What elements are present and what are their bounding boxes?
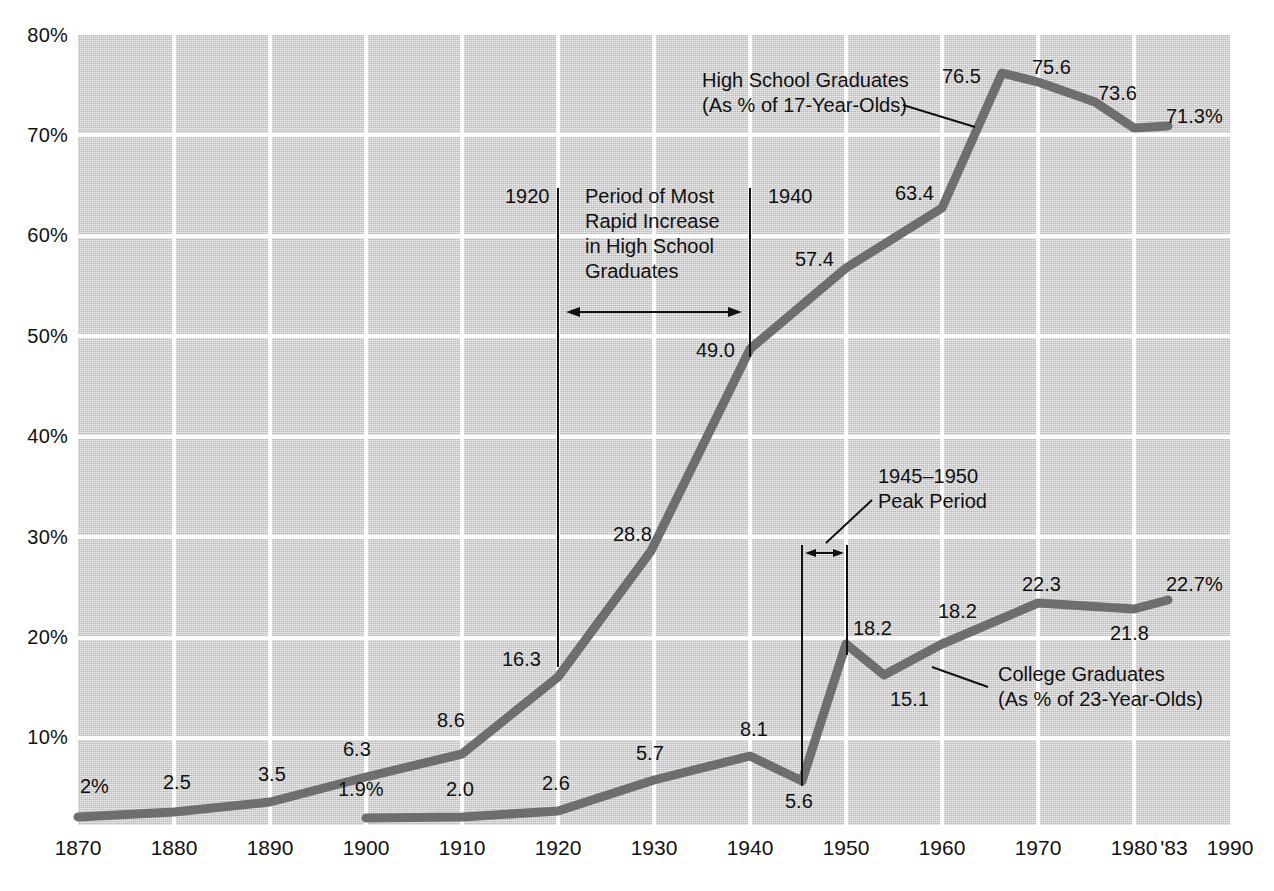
- x-tick-1910: 1910: [439, 836, 486, 860]
- college-label-1970: 22.3: [1022, 573, 1061, 596]
- gridline-1960: [940, 35, 944, 825]
- y-tick-40: 40%: [27, 425, 68, 448]
- college-callout-line1: College Graduates: [998, 662, 1203, 687]
- x-tick-1950: 1950: [823, 836, 870, 860]
- rapid-increase-line1: Period of Most: [585, 184, 720, 209]
- x-tick-1980: 1980: [1111, 836, 1158, 860]
- gridline-1900: [364, 35, 368, 825]
- hs-label-1930: 28.8: [613, 523, 652, 546]
- college-label-1954: 15.1: [890, 688, 929, 711]
- x-tick-1930: 1930: [631, 836, 678, 860]
- college-label-1900: 1.9%: [338, 778, 384, 801]
- hs-label-1880: 2.5: [163, 771, 191, 794]
- gridline-1920: [556, 35, 560, 825]
- gridline-1890: [268, 35, 272, 825]
- y-tick-70: 70%: [27, 124, 68, 147]
- hs-label-1965: 76.5: [942, 65, 981, 88]
- x-tick-1970: 1970: [1015, 836, 1062, 860]
- x-tick-1940: 1940: [727, 836, 774, 860]
- hs-label-1960: 63.4: [895, 182, 934, 205]
- college-callout-line2: (As % of 23-Year-Olds): [998, 687, 1203, 712]
- x-tick-1960: 1960: [919, 836, 966, 860]
- gridline-1950: [844, 35, 848, 825]
- x-tick-1983: '83: [1160, 836, 1187, 860]
- rapid-increase-annotation: Period of Most Rapid Increase in High Sc…: [585, 184, 720, 284]
- rapid-increase-line2: Rapid Increase: [585, 209, 720, 234]
- gridline-1910: [460, 35, 464, 825]
- x-tick-1870: 1870: [55, 836, 102, 860]
- college-label-1940: 8.1: [740, 718, 768, 741]
- high-school-series-callout: High School Graduates (As % of 17-Year-O…: [702, 68, 909, 118]
- education-attainment-line-chart: 80% 70% 60% 50% 40% 30% 20% 10% 1870 188…: [0, 0, 1274, 891]
- hs-label-1920: 16.3: [502, 648, 541, 671]
- x-tick-1990: 1990: [1207, 836, 1254, 860]
- hs-label-1970: 75.6: [1032, 56, 1071, 79]
- rapid-increase-marker-1940: 1940: [768, 184, 813, 209]
- hs-label-1890: 3.5: [258, 763, 286, 786]
- college-label-1983: 22.7%: [1166, 573, 1223, 596]
- rapid-increase-line4: Graduates: [585, 259, 720, 284]
- college-label-1920: 2.6: [542, 772, 570, 795]
- x-tick-1880: 1880: [151, 836, 198, 860]
- hs-label-1950: 57.4: [795, 248, 834, 271]
- rapid-increase-line3: in High School: [585, 234, 720, 259]
- peak-period-line1: 1945–1950: [878, 464, 987, 489]
- high-school-callout-line2: (As % of 17-Year-Olds): [702, 93, 909, 118]
- gridline-1930: [652, 35, 656, 825]
- y-tick-80: 80%: [27, 24, 68, 47]
- gridline-1880: [172, 35, 176, 825]
- y-tick-20: 20%: [27, 626, 68, 649]
- gridline-1940: [748, 35, 752, 825]
- peak-period-annotation: 1945–1950 Peak Period: [878, 464, 987, 514]
- high-school-callout-line1: High School Graduates: [702, 68, 909, 93]
- peak-period-line2: Peak Period: [878, 489, 987, 514]
- college-series-callout: College Graduates (As % of 23-Year-Olds): [998, 662, 1203, 712]
- rapid-increase-marker-1920: 1920: [505, 184, 550, 209]
- hs-label-1983: 71.3%: [1166, 105, 1223, 128]
- x-tick-1890: 1890: [247, 836, 294, 860]
- x-tick-1900: 1900: [343, 836, 390, 860]
- y-tick-10: 10%: [27, 726, 68, 749]
- college-label-1960: 18.2: [938, 600, 977, 623]
- x-tick-1920: 1920: [535, 836, 582, 860]
- college-label-1950: 18.2: [853, 617, 892, 640]
- hs-label-1910: 8.6: [437, 709, 465, 732]
- college-label-1980: 21.8: [1110, 622, 1149, 645]
- college-label-1945: 5.6: [785, 790, 813, 813]
- college-label-1930: 5.7: [636, 742, 664, 765]
- hs-label-1870: 2%: [80, 775, 109, 798]
- hs-label-1940: 49.0: [696, 339, 735, 362]
- college-label-1910: 2.0: [446, 778, 474, 801]
- hs-label-1976: 73.6: [1098, 82, 1137, 105]
- y-tick-30: 30%: [27, 526, 68, 549]
- y-tick-60: 60%: [27, 224, 68, 247]
- hs-label-1900: 6.3: [343, 738, 371, 761]
- y-tick-50: 50%: [27, 325, 68, 348]
